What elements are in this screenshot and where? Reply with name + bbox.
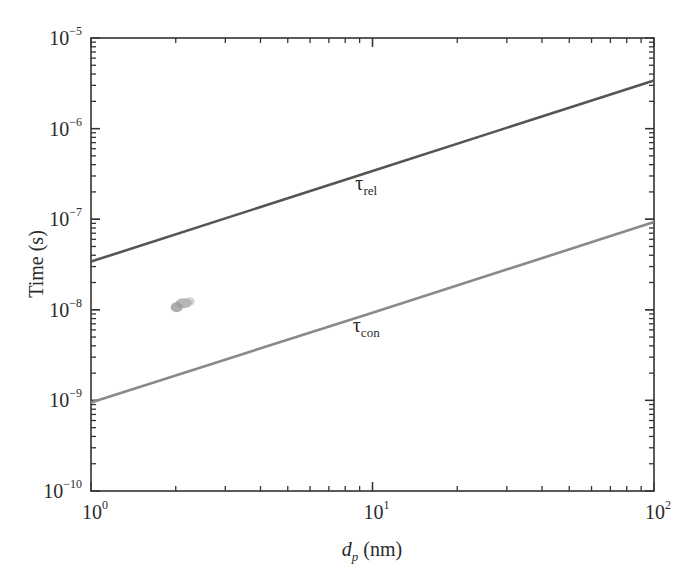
data-series: [91, 80, 654, 402]
x-tick-label: 101: [364, 498, 390, 523]
x-axis-tick-labels: 100101102: [82, 498, 671, 523]
x-axis-title: dp (nm): [342, 538, 402, 564]
y-tick-label: 10−6: [49, 115, 82, 140]
y-tick-label: 10−9: [49, 386, 82, 411]
y-tick-label: 10−8: [49, 296, 82, 321]
x-tick-label: 102: [645, 498, 671, 523]
series-line-rel: [91, 80, 654, 261]
smudge-mark: [171, 297, 195, 312]
x-tick-label: 100: [82, 498, 108, 523]
chart-figure: 10−510−610−710−810−910−10 100101102 τrel…: [0, 0, 687, 573]
y-tick-label: 10−7: [49, 205, 82, 230]
y-tick-label: 10−10: [43, 477, 82, 502]
series-line-con: [91, 222, 654, 402]
axis-ticks: [91, 38, 654, 491]
plot-border: [91, 38, 654, 491]
annotations: τrelτcon: [171, 172, 380, 340]
y-axis-title: Time (s): [25, 230, 48, 298]
plot-area: [91, 38, 654, 491]
series-label-con: τcon: [353, 314, 380, 340]
y-tick-label: 10−5: [49, 24, 82, 49]
series-label-rel: τrel: [355, 172, 377, 198]
y-axis-tick-labels: 10−510−610−710−810−910−10: [43, 24, 82, 502]
